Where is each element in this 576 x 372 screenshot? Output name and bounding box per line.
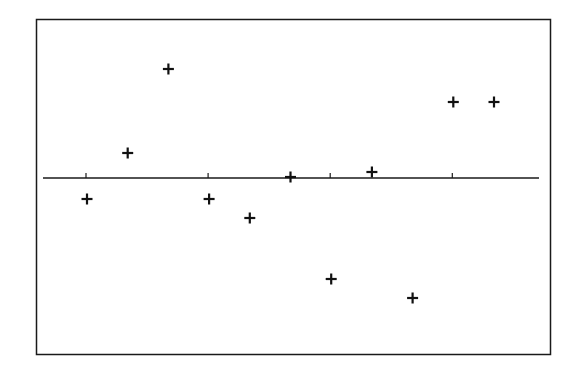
- plus-marker-icon: [122, 148, 133, 159]
- plot-frame: [37, 20, 551, 355]
- plus-marker-icon: [285, 172, 296, 183]
- plus-marker-icon: [163, 64, 174, 75]
- plus-marker-icon: [407, 293, 418, 304]
- plus-marker-icon: [366, 167, 377, 178]
- plus-marker-icon: [204, 194, 215, 205]
- plus-marker-icon: [82, 194, 93, 205]
- plus-marker-icon: [326, 274, 337, 285]
- plus-marker-icon: [489, 97, 500, 108]
- plus-marker-icon: [244, 213, 255, 224]
- scatter-plot: [0, 0, 576, 372]
- plus-marker-icon: [448, 97, 459, 108]
- data-points: [82, 64, 500, 304]
